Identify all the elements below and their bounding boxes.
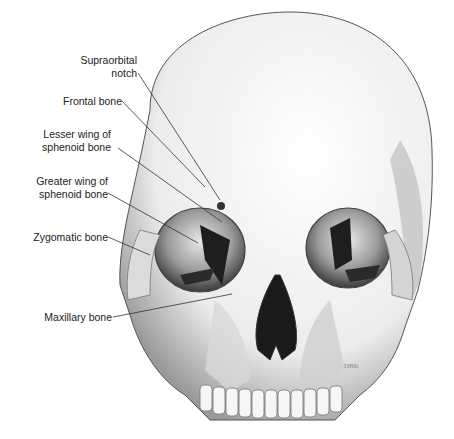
skull-illustration: DBK [0, 0, 454, 439]
label-frontal-bone: Frontal bone [63, 95, 122, 108]
teeth [200, 385, 342, 418]
label-zygomatic-bone: Zygomatic bone [33, 231, 108, 244]
label-maxillary-bone: Maxillary bone [44, 311, 112, 324]
label-greater-wing: Greater wing of sphenoid bone [36, 175, 108, 201]
skull-diagram: DBK Supraorbital notch Frontal bone Less… [0, 0, 454, 439]
label-supraorbital-notch: Supraorbital notch [80, 54, 137, 80]
label-lesser-wing: Lesser wing of sphenoid bone [42, 128, 111, 154]
artist-signature: DBK [344, 362, 359, 370]
